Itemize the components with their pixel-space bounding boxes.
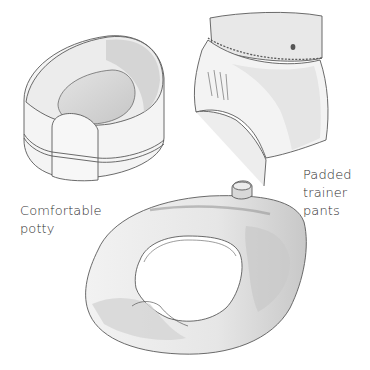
potty-label: Comfortable potty [20,202,102,238]
trainer-pants-label-line-1: Padded [303,166,352,184]
potty-label-line-2: potty [20,220,102,238]
trainer-pants-label-line-2: trainer [303,184,352,202]
trainer-pants-illustration [194,12,328,186]
potty-label-line-1: Comfortable [20,202,102,220]
seat-adapter-illustration [86,181,307,354]
potty-illustration [24,36,164,181]
trainer-pants-label-line-3: pants [303,202,352,220]
trainer-pants-label: Padded trainer pants [303,166,352,220]
